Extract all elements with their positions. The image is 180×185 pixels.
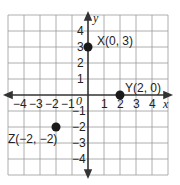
point-x [84, 43, 93, 52]
svg-text:1: 1 [101, 97, 108, 111]
svg-text:−2: −2 [45, 97, 59, 111]
svg-text:4: 4 [77, 24, 84, 38]
svg-text:2: 2 [77, 56, 84, 70]
svg-text:−3: −3 [29, 97, 43, 111]
point-y [116, 91, 125, 100]
x-axis-label: x [162, 97, 169, 111]
y-axis-label: y [92, 11, 99, 25]
point-z [52, 123, 61, 132]
svg-text:−1: −1 [72, 104, 86, 118]
y-axis-down-arrow-icon [85, 170, 91, 177]
point-y-label: Y(2, 0) [125, 81, 161, 95]
coordinate-plane: y x 0 −4 −3 −2 −1 1 2 3 4 4 3 2 1 −1 −2 … [0, 0, 180, 185]
y-axis-up-arrow-icon [85, 13, 91, 20]
svg-text:−3: −3 [72, 136, 86, 150]
svg-text:−4: −4 [13, 97, 27, 111]
point-z-label: Z(−2, −2) [8, 132, 57, 146]
svg-text:3: 3 [77, 40, 84, 54]
svg-text:1: 1 [77, 72, 84, 86]
x-axis-left-arrow-icon [5, 92, 12, 98]
svg-text:3: 3 [133, 97, 140, 111]
axes [5, 13, 171, 177]
svg-text:−4: −4 [72, 152, 86, 166]
svg-text:4: 4 [149, 97, 156, 111]
point-x-label: X(0, 3) [97, 34, 133, 48]
svg-text:−2: −2 [72, 120, 86, 134]
